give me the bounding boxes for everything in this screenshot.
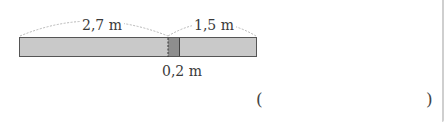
right-length-label: 1,5 m	[192, 18, 236, 32]
left-length-label: 2,7 m	[80, 18, 124, 32]
overlap-segment	[168, 38, 179, 56]
answer-close-paren: )	[426, 91, 433, 108]
overlap-length-label: 0,2 m	[162, 64, 202, 78]
answer-open-paren: (	[256, 91, 263, 108]
answer-blank[interactable]	[268, 90, 420, 112]
right-border	[442, 0, 444, 122]
combined-bar	[20, 38, 257, 57]
